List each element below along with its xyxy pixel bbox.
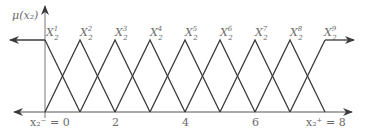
mf-4 <box>115 40 185 112</box>
mf-6 <box>185 40 255 112</box>
x-tick-labels: x₂⁻ = 0 2 4 6 x₂⁺ = 8 <box>30 116 346 129</box>
x-tick-8: x₂⁺ = 8 <box>306 116 346 129</box>
mf-label-4: X42 <box>149 25 163 42</box>
mf-label-2: X22 <box>79 25 93 42</box>
membership-function-diagram: μ(x₂) X12 X22 X32 X42 X52 X62 X72 X82 X9… <box>0 0 366 134</box>
mf-labels: X12 X22 X32 X42 X52 X62 X72 X82 X92 <box>45 25 337 42</box>
mf-2 <box>45 40 115 112</box>
mf-5 <box>150 40 220 112</box>
mf-label-5: X52 <box>184 25 198 42</box>
mf-label-7: X72 <box>254 25 268 42</box>
mf-8 <box>255 40 325 112</box>
y-axis-label: μ(x₂) <box>12 9 38 22</box>
x-tick-0: x₂⁻ = 0 <box>30 116 70 129</box>
x-tick-6: 6 <box>252 116 259 129</box>
mf-label-8: X82 <box>289 25 303 42</box>
membership-triangles <box>45 40 325 112</box>
mf-3 <box>80 40 150 112</box>
x-tick-2: 2 <box>112 116 119 129</box>
mf-label-6: X62 <box>219 25 233 42</box>
mf-label-1: X12 <box>45 25 59 42</box>
mf-7 <box>220 40 290 112</box>
x-tick-4: 4 <box>182 116 189 129</box>
mf-label-3: X32 <box>114 25 128 42</box>
